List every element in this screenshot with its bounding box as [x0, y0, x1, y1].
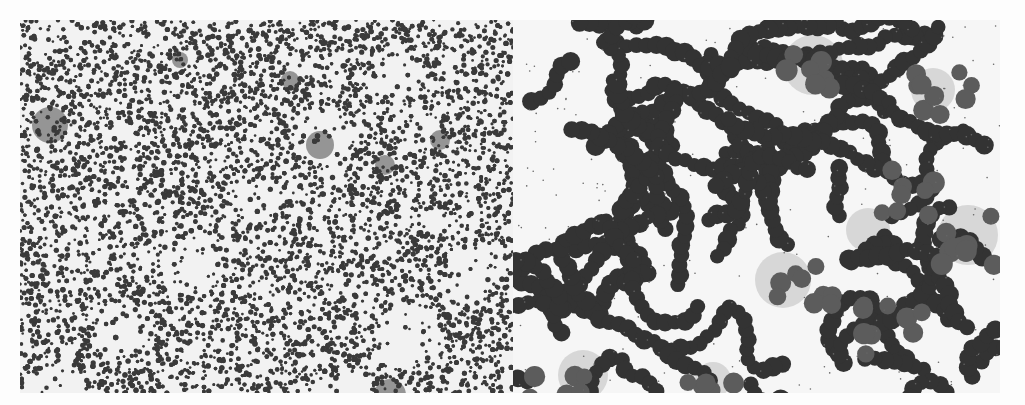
micrograph-figure	[0, 0, 1025, 405]
low-mag-image	[20, 20, 513, 393]
high-magnification-micrograph	[513, 20, 1000, 393]
high-mag-image	[513, 20, 1000, 393]
low-magnification-micrograph	[20, 20, 513, 393]
